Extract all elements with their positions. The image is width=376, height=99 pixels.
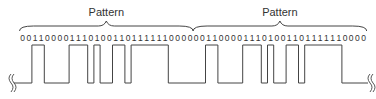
bit-digit: 1 bbox=[150, 33, 155, 43]
bit-digit: 0 bbox=[169, 33, 174, 43]
bit-digit: 0 bbox=[231, 33, 236, 43]
bit-digit: 0 bbox=[126, 33, 131, 43]
bit-digit: 0 bbox=[237, 33, 242, 43]
digital-waveform bbox=[14, 45, 368, 83]
bit-digit: 1 bbox=[70, 33, 75, 43]
bit-digit: 1 bbox=[318, 33, 323, 43]
bit-digit: 1 bbox=[138, 33, 143, 43]
bit-digit: 1 bbox=[212, 33, 217, 43]
bit-digit: 1 bbox=[132, 33, 137, 43]
bit-digit: 1 bbox=[305, 33, 310, 43]
bit-digit: 0 bbox=[194, 33, 199, 43]
bit-digit: 0 bbox=[101, 33, 106, 43]
bit-digit: 0 bbox=[181, 33, 186, 43]
bit-sequence: 0011000011101001101111110000001100001110… bbox=[20, 33, 366, 43]
bit-digit: 0 bbox=[64, 33, 69, 43]
bit-digit: 1 bbox=[206, 33, 211, 43]
bit-digit: 0 bbox=[51, 33, 56, 43]
bit-digit: 1 bbox=[312, 33, 317, 43]
pattern-labels: Pattern Pattern bbox=[89, 6, 298, 18]
bit-digit: 0 bbox=[349, 33, 354, 43]
bit-digit: 0 bbox=[20, 33, 25, 43]
bit-digit: 0 bbox=[262, 33, 267, 43]
bit-digit: 1 bbox=[324, 33, 329, 43]
pattern-label-1: Pattern bbox=[89, 6, 124, 18]
pattern-braces bbox=[20, 21, 367, 31]
bit-digit: 0 bbox=[88, 33, 93, 43]
bit-digit: 0 bbox=[219, 33, 224, 43]
bit-digit: 1 bbox=[33, 33, 38, 43]
bit-digit: 0 bbox=[45, 33, 50, 43]
bit-digit: 1 bbox=[336, 33, 341, 43]
bit-digit: 0 bbox=[274, 33, 279, 43]
bit-digit: 0 bbox=[299, 33, 304, 43]
bit-digit: 1 bbox=[163, 33, 168, 43]
bit-digit: 0 bbox=[26, 33, 31, 43]
bit-digit: 0 bbox=[200, 33, 205, 43]
bit-digit: 1 bbox=[243, 33, 248, 43]
bit-digit: 1 bbox=[330, 33, 335, 43]
bit-digit: 1 bbox=[39, 33, 44, 43]
pattern-label-2: Pattern bbox=[262, 6, 297, 18]
bit-digit: 1 bbox=[287, 33, 292, 43]
bit-digit: 1 bbox=[293, 33, 298, 43]
bit-digit: 0 bbox=[107, 33, 112, 43]
bit-digit: 0 bbox=[175, 33, 180, 43]
bit-digit: 1 bbox=[95, 33, 100, 43]
bit-digit: 0 bbox=[361, 33, 366, 43]
bit-digit: 1 bbox=[268, 33, 273, 43]
bit-digit: 0 bbox=[57, 33, 62, 43]
bit-digit: 1 bbox=[144, 33, 149, 43]
pattern-brace bbox=[20, 21, 194, 31]
bit-digit: 1 bbox=[256, 33, 261, 43]
bit-digit: 1 bbox=[113, 33, 118, 43]
bit-digit: 1 bbox=[119, 33, 124, 43]
bit-digit: 1 bbox=[76, 33, 81, 43]
bit-digit: 1 bbox=[82, 33, 87, 43]
bit-digit: 0 bbox=[225, 33, 230, 43]
pattern-brace bbox=[193, 21, 367, 31]
bit-digit: 0 bbox=[281, 33, 286, 43]
bit-digit: 0 bbox=[355, 33, 360, 43]
bit-digit: 1 bbox=[157, 33, 162, 43]
bit-digit: 0 bbox=[343, 33, 348, 43]
bit-pattern-diagram: Pattern Pattern 001100001110100110111111… bbox=[0, 0, 376, 99]
bit-digit: 1 bbox=[250, 33, 255, 43]
bit-digit: 0 bbox=[188, 33, 193, 43]
